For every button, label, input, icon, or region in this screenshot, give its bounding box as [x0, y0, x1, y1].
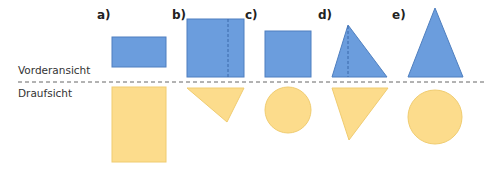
- part-e-front-triangle: [408, 8, 463, 77]
- part-label-a: a): [97, 8, 111, 22]
- part-d-front-triangle: [332, 25, 387, 77]
- part-b-front-square: [187, 19, 244, 77]
- part-e-top-circle: [408, 90, 462, 144]
- part-b: [187, 19, 244, 122]
- top-view-label: Draufsicht: [18, 87, 72, 99]
- part-c-front-square: [265, 31, 311, 77]
- part-e: [408, 8, 463, 144]
- part-label-d: d): [318, 8, 332, 22]
- orthographic-views-diagram: Vorderansicht Draufsicht a) b) c) d) e): [0, 0, 486, 171]
- part-a: [112, 37, 166, 162]
- front-view-label: Vorderansicht: [18, 64, 90, 76]
- part-label-b: b): [172, 8, 186, 22]
- part-d-top-triangle: [332, 88, 388, 140]
- part-label-c: c): [245, 8, 258, 22]
- part-label-e: e): [392, 8, 406, 22]
- part-b-top-triangle: [187, 88, 244, 122]
- part-c-top-circle: [265, 87, 311, 133]
- part-a-top-rectangle: [112, 87, 166, 162]
- part-a-front-rectangle: [112, 37, 166, 67]
